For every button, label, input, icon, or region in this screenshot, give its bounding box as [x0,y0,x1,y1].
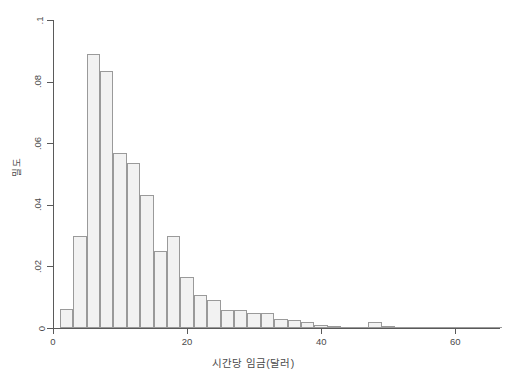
histogram-bar [274,319,287,328]
histogram-bar [247,313,260,328]
histogram-bar [167,236,180,328]
histogram-chart: 0.02.04.06.08.1 0204060 밀도 시간당 임금(달러) [0,0,506,380]
y-tick-label: 0 [0,322,44,334]
y-tick-label: .02 [0,260,44,272]
histogram-bar [60,309,73,328]
y-axis-title: 밀도 [9,158,23,177]
histogram-bar [113,153,126,328]
x-tick [187,329,188,334]
x-axis-title: 시간당 임금(달러) [0,355,506,370]
y-tick [47,82,53,83]
y-tick [47,20,53,21]
histogram-bar [154,251,167,328]
y-tick-label: .1 [0,14,44,26]
histogram-bars-layer [0,0,506,380]
histogram-bar [127,163,140,328]
y-tick [47,266,53,267]
y-tick-label: .06 [0,137,44,149]
histogram-bar [73,236,86,328]
histogram-bar [194,295,207,328]
x-tick-label: 60 [435,336,475,347]
x-tick-label: 20 [167,336,207,347]
x-tick-label: 0 [33,336,73,347]
y-tick-label: .04 [0,199,44,211]
histogram-bar [261,313,274,328]
histogram-bar [288,320,301,328]
histogram-bar [180,277,193,328]
histogram-bar [234,310,247,328]
x-tick-label: 40 [301,336,341,347]
histogram-bar [140,195,153,328]
x-tick [455,329,456,334]
y-tick [47,143,53,144]
histogram-bar [87,54,100,328]
x-tick [321,329,322,334]
y-tick-label: .08 [0,76,44,88]
histogram-bar [221,310,234,328]
x-tick [53,329,54,334]
histogram-bar [207,300,220,328]
y-tick [47,205,53,206]
histogram-bar [100,71,113,328]
y-axis-line [53,20,54,329]
x-axis-line [53,328,500,329]
